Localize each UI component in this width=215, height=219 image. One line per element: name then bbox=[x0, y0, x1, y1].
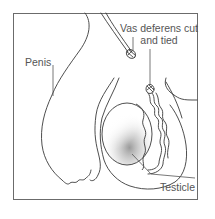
penis-label: Penis bbox=[25, 56, 51, 68]
vas-label-line2: and tied bbox=[113, 34, 205, 46]
vasectomy-diagram: Penis Vas deferens cut and tied Testicle bbox=[0, 0, 215, 219]
vas-deferens-label: Vas deferens cut and tied bbox=[113, 22, 205, 46]
scrotum-right-wall bbox=[166, 82, 182, 118]
testicle-label: Testicle bbox=[160, 181, 195, 193]
testicle bbox=[102, 103, 152, 170]
vas-label-line1: Vas deferens cut bbox=[113, 22, 205, 34]
penis-outline bbox=[41, 13, 91, 184]
